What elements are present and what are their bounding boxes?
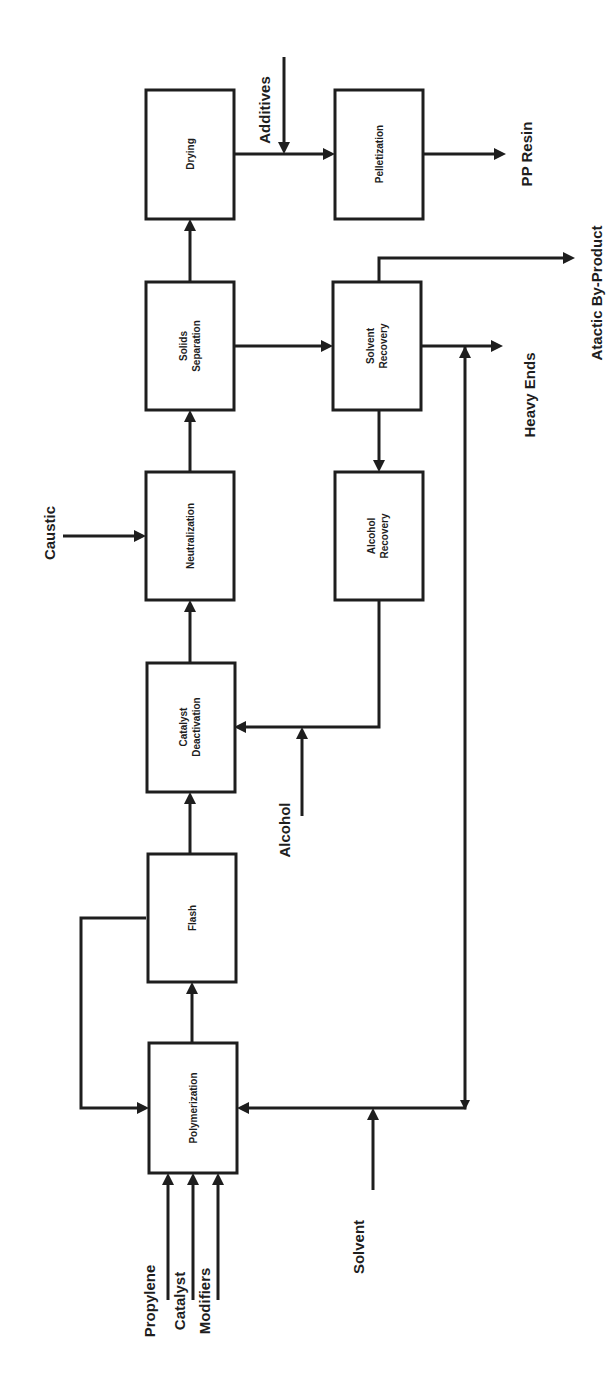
arrowhead-icon: [134, 530, 146, 542]
unit-catalyst-deactivation: Catalyst Deactivation: [147, 663, 235, 792]
unit-label-line1: Solids: [178, 331, 189, 361]
heavy-ends-label: Heavy Ends: [521, 352, 538, 437]
unit-label-line1: Alcohol: [366, 517, 377, 554]
arrowhead-icon: [237, 1102, 249, 1114]
arrowhead-icon: [367, 1108, 379, 1120]
arrowhead-icon: [212, 1173, 224, 1185]
unit-label: Pelletization: [374, 125, 385, 183]
arrowhead-icon: [459, 346, 471, 358]
arrowhead-icon: [321, 340, 333, 352]
arrowhead-icon: [494, 148, 506, 160]
solvent-label: Solvent: [350, 1220, 367, 1274]
arrowhead-icon: [187, 1173, 199, 1185]
unit-label-line2: Separation: [191, 320, 202, 372]
unit-pelletization: Pelletization: [335, 90, 423, 219]
caustic-label: Caustic: [41, 506, 58, 560]
arrowhead-icon: [184, 792, 196, 804]
flash-recycle-line: [81, 918, 146, 1108]
unit-label-line2: Recovery: [378, 323, 389, 368]
arrowhead-icon: [491, 340, 503, 352]
unit-label: Neutralization: [185, 503, 196, 569]
stream-labels: Additives PP Resin Atactic By-Product He…: [41, 76, 605, 1337]
propylene-label: Propylene: [141, 1265, 158, 1338]
additives-label: Additives: [256, 76, 273, 144]
arrowhead-icon: [296, 727, 308, 739]
unit-alcohol-recovery: Alcohol Recovery: [335, 472, 423, 600]
arrowhead-icon: [162, 1173, 174, 1185]
unit-label-line1: Catalyst: [178, 707, 189, 747]
arrowhead-icon: [184, 219, 196, 231]
arrowhead-icon: [186, 982, 198, 994]
arrowhead-icon: [184, 600, 196, 612]
atactic-by-product-label: Atactic By-Product: [588, 225, 605, 360]
alcohol-label: Alcohol: [276, 803, 293, 858]
alcohol-recycle-line: [244, 600, 379, 727]
arrowhead-icon: [323, 148, 335, 160]
atactic-output-line: [379, 258, 565, 282]
unit-label-line2: Deactivation: [191, 697, 202, 756]
unit-flash: Flash: [148, 854, 236, 982]
unit-label: Polymerization: [188, 1072, 199, 1143]
unit-neutralization: Neutralization: [146, 472, 234, 600]
process-flow-diagram: Drying Pelletization Solids Separation S…: [0, 0, 611, 1378]
unit-label-line1: Solvent: [365, 327, 376, 364]
catalyst-label: Catalyst: [171, 1272, 188, 1330]
unit-label: Flash: [187, 905, 198, 931]
flow-lines: [63, 57, 575, 1300]
unit-solvent-recovery: Solvent Recovery: [333, 282, 421, 410]
unit-drying: Drying: [146, 90, 234, 219]
arrowhead-icon: [373, 460, 385, 472]
arrowhead-icon: [184, 410, 196, 422]
arrowhead-icon: [278, 142, 290, 154]
arrowhead-icon: [137, 1102, 149, 1114]
unit-label-line2: Recovery: [379, 513, 390, 558]
unit-label: Drying: [185, 138, 196, 170]
unit-solids-separation: Solids Separation: [146, 282, 234, 410]
pp-resin-label: PP Resin: [518, 122, 535, 187]
unit-polymerization: Polymerization: [149, 1043, 237, 1173]
arrowhead-icon: [563, 252, 575, 264]
modifiers-label: Modifiers: [196, 1268, 213, 1335]
